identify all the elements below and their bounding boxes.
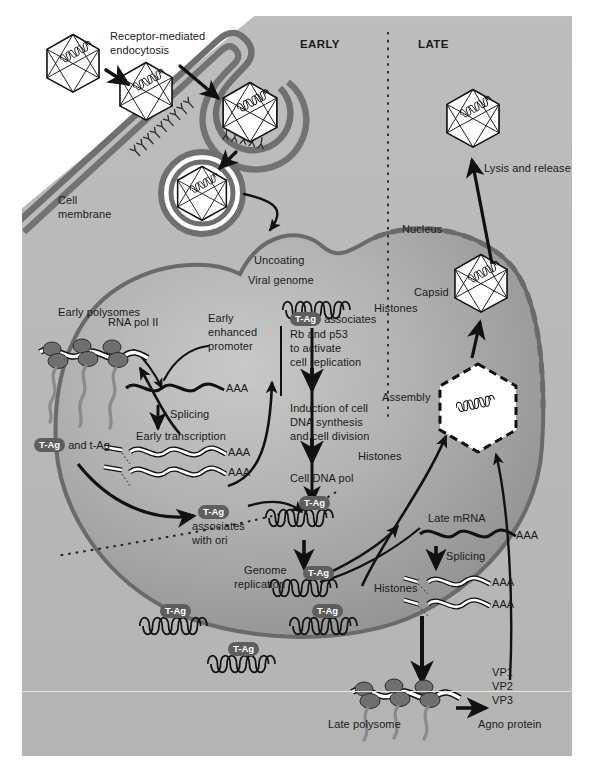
splicing-late-label: Splicing bbox=[446, 550, 485, 563]
t-ag-pill-genome-5: T-Ag bbox=[228, 642, 259, 656]
uncoating-label: Uncoating bbox=[254, 254, 304, 267]
nucleus-label: Nucleus bbox=[402, 223, 442, 236]
induction-line2: DNA synthesis bbox=[290, 416, 363, 429]
t-ag-pill: T-Ag bbox=[34, 438, 65, 452]
late-mrna-label: Late mRNA bbox=[428, 512, 486, 525]
t-ag-pill-rb: T-Ag bbox=[290, 312, 321, 326]
t-ag-pill-genome-4: T-Ag bbox=[312, 604, 343, 618]
receptor-endocytosis-line2: endocytosis bbox=[110, 44, 169, 57]
induction-line3: and cell division bbox=[290, 430, 369, 443]
histones-top-label: Histones bbox=[374, 302, 418, 315]
t-ag-pill-genome-2: T-Ag bbox=[303, 566, 334, 580]
cell-replication-label: cell replication bbox=[290, 356, 361, 369]
histones-mid-label: Histones bbox=[374, 582, 418, 595]
lysis-release-label: Lysis and release bbox=[484, 162, 571, 175]
assembly-label: Assembly bbox=[382, 391, 430, 404]
cell-dna-pol-label: Cell DNA pol bbox=[290, 472, 354, 485]
associates-with-ori-line2: with ori bbox=[192, 534, 228, 547]
aaa-late-3: AAA bbox=[492, 598, 514, 611]
agno-protein-label: Agno protein bbox=[478, 718, 542, 731]
aaa-early-3: AAA bbox=[228, 466, 250, 479]
early-enhanced-promoter-line3: promoter bbox=[208, 340, 253, 353]
diagram-frame: EARLY LATE Receptor-mediated endocytosis… bbox=[22, 16, 572, 756]
vp3-label: VP3 bbox=[492, 694, 513, 707]
cell-membrane-line1: Cell bbox=[58, 194, 77, 207]
diagram-svg bbox=[22, 16, 572, 756]
late-polysome-label: Late polysome bbox=[328, 718, 401, 731]
early-enhanced-promoter-line1: Early bbox=[208, 312, 234, 325]
histones-assembly-label: Histones bbox=[358, 450, 402, 463]
aaa-late-2: AAA bbox=[492, 576, 514, 589]
to-activate-label: to activate bbox=[290, 342, 341, 355]
vp2-label: VP2 bbox=[492, 680, 513, 693]
early-transcription-label: Early transcription bbox=[136, 430, 226, 443]
induction-line1: Induction of cell bbox=[290, 402, 368, 415]
cell-membrane-line2: membrane bbox=[58, 208, 111, 221]
associates-with-ori-line1: associates bbox=[192, 520, 245, 533]
aaa-late-1: AAA bbox=[516, 529, 538, 542]
aaa-early-1: AAA bbox=[226, 382, 248, 395]
receptor-endocytosis-line1: Receptor-mediated bbox=[110, 30, 205, 43]
t-ag-associates-suffix: associates bbox=[321, 313, 376, 325]
rb-and-p53-label: Rb and p53 bbox=[290, 328, 348, 341]
t-ag-and-suffix: and t-Ag bbox=[65, 439, 110, 451]
splicing-early-label: Splicing bbox=[170, 408, 209, 421]
viral-genome-label: Viral genome bbox=[248, 274, 314, 287]
aaa-early-2: AAA bbox=[228, 446, 250, 459]
t-ag-pill-genome-1: T-Ag bbox=[299, 496, 330, 510]
capsid-label: Capsid bbox=[414, 286, 449, 299]
genome-replication-line2: replication bbox=[234, 578, 285, 591]
t-ag-associates-row: T-Ag associates bbox=[290, 312, 376, 326]
t-ag-and-t-ag-row: T-Ag and t-Ag bbox=[34, 438, 110, 452]
t-ag-pill-genome-3: T-Ag bbox=[160, 604, 191, 618]
figure-canvas: EARLY LATE Receptor-mediated endocytosis… bbox=[0, 0, 589, 768]
vp1-label: VP1 bbox=[492, 666, 513, 679]
early-enhanced-promoter-line2: enhanced bbox=[208, 326, 257, 339]
phase-label-early: EARLY bbox=[300, 38, 340, 51]
genome-replication-line1: Genome bbox=[244, 564, 287, 577]
phase-label-late: LATE bbox=[418, 38, 449, 51]
t-ag-pill-ori: T-Ag bbox=[198, 505, 229, 519]
early-polysomes-label: Early polysomes bbox=[58, 306, 140, 319]
